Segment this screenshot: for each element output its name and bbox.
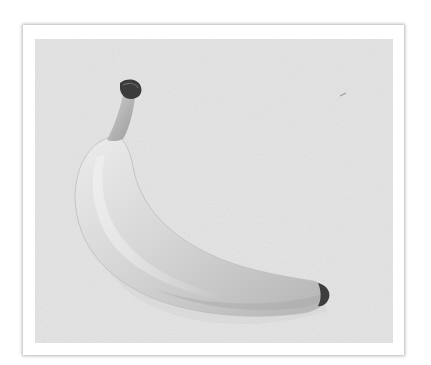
banana-photo	[35, 39, 393, 343]
image-stage	[0, 0, 431, 365]
banana-illustration	[35, 39, 393, 343]
